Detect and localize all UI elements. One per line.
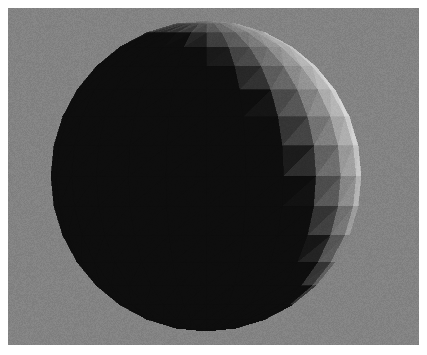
- sphere-facets: [51, 21, 361, 331]
- render-viewport: [8, 8, 419, 345]
- sphere-render: [8, 8, 419, 345]
- image-frame: [0, 0, 427, 355]
